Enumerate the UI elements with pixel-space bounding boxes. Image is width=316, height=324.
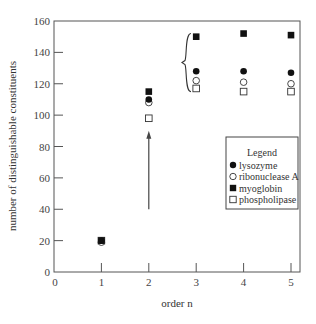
legend-entry: lysozyme — [239, 160, 278, 171]
legend-entry: ribonuclease A — [239, 171, 299, 182]
legend-marker-icon — [230, 185, 236, 191]
y-tick-label: 140 — [34, 46, 51, 58]
legend-marker-icon — [230, 162, 236, 168]
data-point-myoglobin — [288, 32, 295, 39]
data-point-phospholipase — [240, 88, 247, 95]
curly-brace — [182, 34, 191, 92]
data-point-myoglobin — [146, 88, 153, 95]
data-point-phospholipase — [146, 115, 153, 122]
legend: Legendlysozymeribonuclease Amyoglobinpho… — [226, 137, 299, 209]
x-tick-label: 2 — [146, 276, 152, 288]
x-tick-label: 4 — [241, 276, 247, 288]
data-point-myoglobin — [98, 237, 105, 244]
x-tick-label: 3 — [193, 276, 199, 288]
y-axis-ticks: 020406080100120140160 — [34, 15, 64, 278]
arrow-head-icon — [146, 131, 151, 139]
annotations — [146, 34, 191, 210]
x-axis-label: order n — [161, 297, 193, 309]
y-tick-label: 120 — [34, 78, 51, 90]
legend-marker-icon — [230, 173, 236, 179]
legend-marker-icon — [230, 196, 236, 202]
y-tick-label: 40 — [39, 203, 51, 215]
data-point-phospholipase — [288, 88, 295, 95]
data-point-lysozyme — [146, 96, 153, 103]
legend-entry: phospholipase — [239, 194, 297, 205]
y-tick-label: 60 — [39, 172, 51, 184]
data-point-myoglobin — [240, 30, 247, 37]
y-tick-label: 0 — [45, 266, 51, 278]
x-tick-label: 1 — [99, 276, 105, 288]
y-tick-label: 20 — [39, 235, 51, 247]
x-tick-label: 5 — [288, 276, 294, 288]
y-axis-label: number of distinguishable constituents — [6, 61, 18, 231]
legend-title: Legend — [247, 147, 277, 158]
data-point-lysozyme — [240, 68, 247, 75]
data-point-lysozyme — [288, 69, 295, 76]
y-tick-label: 160 — [34, 15, 51, 27]
legend-entry: myoglobin — [239, 183, 282, 194]
data-point-phospholipase — [193, 85, 200, 92]
data-point-ribonuclease-a — [193, 77, 200, 84]
data-point-ribonuclease-a — [288, 80, 295, 87]
y-tick-label: 80 — [39, 141, 51, 153]
x-axis-ticks: 012345 — [52, 263, 294, 288]
x-tick-label: 0 — [52, 276, 58, 288]
data-point-lysozyme — [193, 68, 200, 75]
scatter-chart: 020406080100120140160 012345 order n num… — [0, 0, 316, 324]
y-tick-label: 100 — [34, 109, 51, 121]
data-point-ribonuclease-a — [240, 79, 247, 86]
data-point-myoglobin — [193, 33, 200, 40]
